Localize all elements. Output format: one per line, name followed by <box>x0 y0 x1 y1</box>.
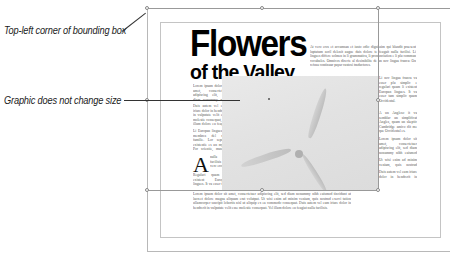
headline-line1: Flowers <box>190 25 306 63</box>
resize-handle-middle-right[interactable] <box>376 98 380 102</box>
drop-cap: A <box>193 155 209 175</box>
resize-handle-top-right[interactable] <box>376 6 380 10</box>
bottom-paragraph: Lorem ipsum dolor sit amet, consectetuer… <box>193 192 351 220</box>
callout-top-left-corner: Top-left corner of bounding box <box>4 24 126 36</box>
selection-top-edge <box>147 8 450 9</box>
paragraph: A un Angleso it va semblar un simplifica… <box>379 111 417 134</box>
turbine-blade <box>240 146 292 169</box>
leader-line-top-left <box>122 13 146 32</box>
wind-turbine-image[interactable] <box>222 76 378 190</box>
callout-graphic-size: Graphic does not change size <box>4 94 121 106</box>
right-text-column: Li nov lingua franca va esser plu simpli… <box>379 76 417 179</box>
resize-handle-top-center[interactable] <box>260 6 264 10</box>
paragraph: Li nov lingua franca va esser plu simpli… <box>379 76 417 108</box>
leader-line-graphic <box>124 100 240 101</box>
turbine-blade <box>306 87 329 139</box>
paragraph: Duis autem vel eum iriure dolor in hendr… <box>379 170 417 179</box>
paragraph: Ut wisi enim ad minim veniam, quis nostr… <box>379 158 417 167</box>
center-point <box>268 98 270 100</box>
resize-handle-bottom-center[interactable] <box>260 188 264 192</box>
turbine-blade <box>300 153 328 190</box>
right-top-paragraph: At vero eros et accumsan et iusto odio d… <box>310 45 416 69</box>
resize-handle-bottom-right[interactable] <box>376 188 380 192</box>
resize-handle-bottom-left[interactable] <box>145 188 149 192</box>
resize-handle-top-left[interactable] <box>145 6 149 10</box>
turbine-hub <box>295 150 303 158</box>
paragraph: Lorem ipsum dolor sit amet, consectetuer… <box>379 137 417 155</box>
